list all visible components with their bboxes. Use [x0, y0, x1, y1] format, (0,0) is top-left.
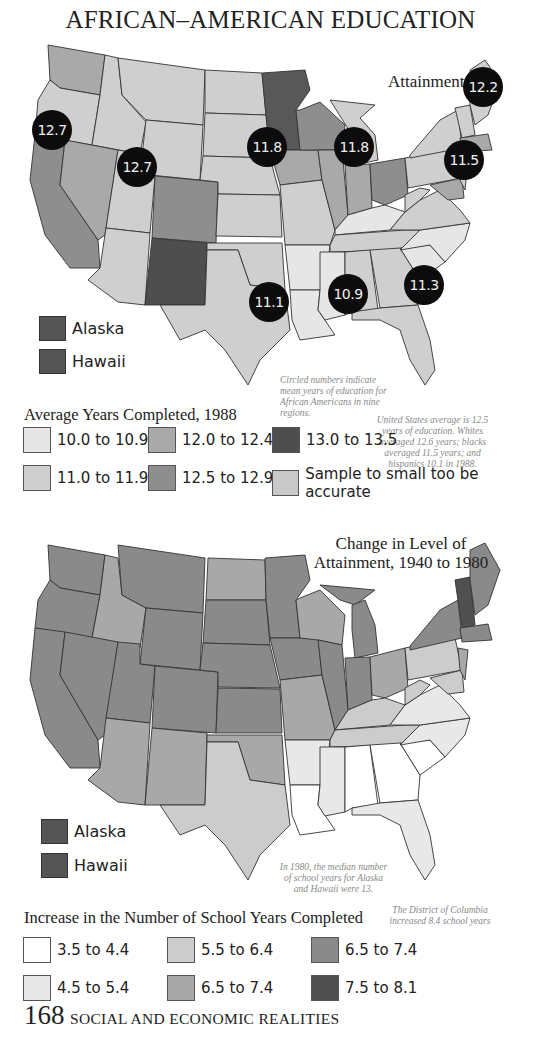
region-value-circle: 12.7: [117, 147, 157, 187]
legend-item: 7.5 to 8.1: [311, 975, 417, 1001]
legend-item: 13.0 to 13.5: [272, 427, 397, 453]
inset-alaska: Alaska: [41, 819, 126, 844]
hawaii-swatch: [39, 349, 66, 374]
section-title: SOCIAL AND ECONOMIC REALITIES: [70, 1010, 339, 1028]
region-value-circle: 11.8: [247, 127, 287, 167]
page-number: 168: [24, 1000, 65, 1031]
map2-subtitle: Change in Level of Attainment, 1940 to 1…: [296, 534, 506, 572]
note-dc: The District of Columbia increased 8.4 s…: [385, 905, 495, 927]
region-value-circle: 12.7: [32, 110, 72, 150]
inset-hawaii: Hawaii: [41, 853, 128, 878]
map1-subtitle: Attainment: [388, 72, 464, 92]
legend-item: 4.5 to 5.4: [23, 975, 129, 1001]
legend-item: Sample to small too be accurate: [272, 465, 541, 501]
region-value-circle: 11.1: [249, 282, 289, 322]
legend-item: 12.0 to 12.4: [148, 427, 273, 453]
region-value-circle: 10.9: [328, 274, 368, 314]
change-map: [0, 540, 541, 940]
legend-item: 6.5 to 7.4: [167, 975, 273, 1001]
legend-item: 11.0 to 11.9: [23, 465, 148, 491]
region-value-circle: 11.5: [444, 140, 484, 180]
alaska-swatch: [41, 819, 68, 844]
inset-label: Alaska: [72, 319, 124, 338]
region-value-circle: 12.2: [463, 67, 503, 107]
alaska-swatch: [39, 316, 66, 341]
note-circled: Circled numbers indicate mean years of e…: [280, 375, 395, 419]
legend-item: 5.5 to 6.4: [167, 937, 273, 963]
region-value-circle: 11.8: [334, 127, 374, 167]
legend-title: Increase in the Number of School Years C…: [24, 908, 363, 928]
inset-label: Hawaii: [72, 352, 126, 371]
region-value-circle: 11.3: [404, 265, 444, 305]
page-title: AFRICAN–AMERICAN EDUCATION: [0, 6, 541, 34]
inset-hawaii: Hawaii: [39, 349, 126, 374]
inset-alaska: Alaska: [39, 316, 124, 341]
hawaii-swatch: [41, 853, 68, 878]
inset-label: Hawaii: [74, 856, 128, 875]
note-alaska-hawaii: In 1980, the median number of school yea…: [276, 862, 391, 895]
legend-title: Average Years Completed, 1988: [24, 405, 237, 425]
legend-item: 10.0 to 10.9: [23, 427, 148, 453]
inset-label: Alaska: [74, 822, 126, 841]
legend-item: 12.5 to 12.9: [148, 465, 273, 491]
legend-item: 6.5 to 7.4: [311, 937, 417, 963]
attainment-map: [0, 40, 541, 440]
legend-item: 3.5 to 4.4: [23, 937, 129, 963]
